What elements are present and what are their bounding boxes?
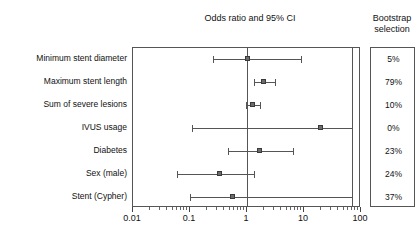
axis-tick-minor [280, 207, 281, 210]
axis-tick-minor [183, 207, 184, 210]
axis-tick-minor [243, 207, 244, 210]
confidence-interval-cap-low [228, 148, 229, 155]
plot-area [132, 47, 360, 207]
row-label: Maximum stent length [0, 77, 127, 86]
confidence-interval-cap-low [192, 125, 193, 132]
row-label: Stent (Cypher) [0, 191, 127, 200]
confidence-interval-line [190, 197, 352, 198]
odds-ratio-marker [250, 102, 255, 107]
row-label: Minimum stent diameter [0, 54, 127, 63]
confidence-interval-cap-high [254, 171, 255, 178]
confidence-interval-cap-high [293, 148, 294, 155]
axis-tick-minor [223, 207, 224, 210]
reference-line-or-1 [247, 48, 248, 206]
bootstrap-selection-value: 79% [371, 78, 416, 87]
axis-tick-minor [186, 207, 187, 210]
axis-tick-label: 0.1 [183, 213, 196, 224]
row-label: Sex (male) [0, 168, 127, 177]
confidence-interval-cap-high [260, 102, 261, 109]
axis-tick-minor [343, 207, 344, 210]
axis-tick-minor [337, 207, 338, 210]
confidence-interval-cap-low [254, 79, 255, 86]
x-axis: 0.010.1110100 [132, 207, 360, 229]
forest-plot-figure: Odds ratio and 95% CI Bootstrap selectio… [0, 0, 419, 242]
bootstrap-title: Bootstrap selection [364, 13, 419, 35]
bootstrap-selection-value: 5% [371, 55, 416, 64]
axis-tick-major [246, 207, 247, 212]
bootstrap-selection-value: 0% [371, 124, 416, 133]
confidence-interval-cap-high [301, 56, 302, 63]
bootstrap-selection-value: 37% [371, 192, 416, 201]
axis-tick-minor [233, 207, 234, 210]
odds-ratio-marker [261, 79, 266, 84]
axis-tick-label: 10 [298, 213, 308, 224]
axis-tick-minor [357, 207, 358, 210]
axis-tick-minor [180, 207, 181, 210]
confidence-interval-cap-low [190, 194, 191, 201]
bootstrap-selection-value: 24% [371, 169, 416, 178]
axis-tick-minor [159, 207, 160, 210]
axis-tick-minor [216, 207, 217, 210]
axis-tick-minor [237, 207, 238, 210]
axis-tick-minor [206, 207, 207, 210]
bootstrap-title-line2: selection [364, 24, 419, 35]
row-label-column: Minimum stent diameterMaximum stent leng… [0, 47, 127, 207]
bootstrap-selection-panel: 5%79%10%0%23%24%37% [370, 47, 415, 207]
confidence-interval-cap-low [213, 56, 214, 63]
odds-ratio-marker [230, 194, 235, 199]
axis-tick-minor [320, 207, 321, 210]
odds-ratio-marker [318, 125, 323, 130]
axis-tick-label: 100 [352, 213, 367, 224]
row-label: Sum of severe lesions [0, 100, 127, 109]
odds-ratio-marker [217, 171, 222, 176]
plot-title: Odds ratio and 95% CI [175, 13, 325, 24]
axis-tick-minor [297, 207, 298, 210]
confidence-interval-cap-low [177, 171, 178, 178]
bootstrap-selection-value: 10% [371, 101, 416, 110]
axis-tick-minor [172, 207, 173, 210]
axis-tick-label: 1 [243, 213, 248, 224]
axis-tick-minor [294, 207, 295, 210]
bootstrap-title-line1: Bootstrap [364, 13, 419, 24]
axis-tick-major [189, 207, 190, 212]
confidence-interval-cap-high [275, 79, 276, 86]
axis-tick-major [360, 207, 361, 212]
row-label: IVUS usage [0, 123, 127, 132]
axis-tick-minor [166, 207, 167, 210]
confidence-interval-line [192, 128, 352, 129]
axis-tick-minor [286, 207, 287, 210]
confidence-interval-line [213, 59, 301, 60]
axis-tick-minor [330, 207, 331, 210]
axis-tick-minor [354, 207, 355, 210]
axis-tick-minor [347, 207, 348, 210]
axis-tick-minor [176, 207, 177, 210]
row-label: Diabetes [0, 145, 127, 154]
axis-tick-minor [240, 207, 241, 210]
axis-tick-label: 0.01 [123, 213, 141, 224]
axis-tick-minor [229, 207, 230, 210]
axis-tick-minor [290, 207, 291, 210]
axis-tick-minor [351, 207, 352, 210]
odds-ratio-marker [257, 148, 262, 153]
odds-ratio-marker [245, 56, 250, 61]
axis-tick-major [132, 207, 133, 212]
axis-tick-minor [263, 207, 264, 210]
axis-tick-minor [149, 207, 150, 210]
confidence-interval-cap-low [246, 102, 247, 109]
axis-tick-major [303, 207, 304, 212]
axis-tick-minor [300, 207, 301, 210]
axis-tick-minor [273, 207, 274, 210]
bootstrap-selection-value: 23% [371, 146, 416, 155]
clip-boundary-line [352, 48, 353, 206]
